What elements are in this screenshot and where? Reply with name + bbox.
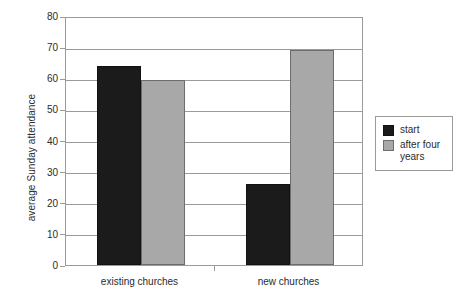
y-axis-tick-label: 80 bbox=[18, 12, 58, 22]
bar-existing-churches-after-four-years bbox=[141, 80, 185, 265]
chart-legend: start after four years bbox=[375, 116, 453, 171]
y-axis-tick-label: 20 bbox=[18, 199, 58, 209]
legend-item-after-four-years[interactable]: after four years bbox=[383, 139, 446, 162]
x-axis-category-divider-tick bbox=[214, 266, 215, 271]
legend-swatch-after-four-years-icon bbox=[383, 140, 394, 151]
legend-label-start: start bbox=[400, 124, 419, 136]
y-axis-tick-label: 50 bbox=[18, 105, 58, 115]
legend-swatch-start-icon bbox=[383, 125, 394, 136]
y-axis-title: average Sunday attendance bbox=[26, 58, 37, 258]
x-axis-tick-label: new churches bbox=[214, 276, 364, 288]
y-axis-tick-label: 70 bbox=[18, 43, 58, 53]
y-axis-tick-label: 10 bbox=[18, 230, 58, 240]
y-axis-tick-label: 60 bbox=[18, 74, 58, 84]
legend-item-start[interactable]: start bbox=[383, 124, 446, 136]
bar-new-churches-start bbox=[246, 184, 290, 265]
y-axis-tick-label: 30 bbox=[18, 168, 58, 178]
bar-new-churches-after-four-years bbox=[290, 50, 334, 265]
bar-chart: average Sunday attendance 01020304050607… bbox=[0, 0, 462, 305]
y-axis-tick-label: 40 bbox=[18, 137, 58, 147]
y-axis-tick-label: 0 bbox=[18, 261, 58, 271]
plot-area bbox=[65, 17, 363, 266]
bar-existing-churches-start bbox=[97, 66, 141, 265]
legend-label-after-four-years: after four years bbox=[400, 139, 446, 162]
x-axis-tick-label: existing churches bbox=[65, 276, 215, 288]
